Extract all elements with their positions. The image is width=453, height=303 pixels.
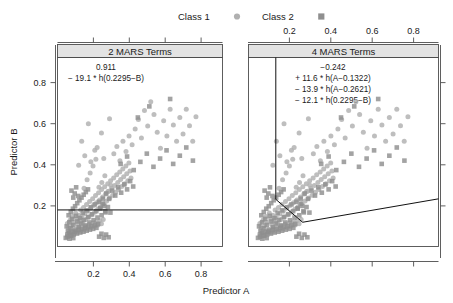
- panel-4-mars-terms: 0.2 0.4 0.6 0.8 4 MARS Terms −0.242 + 11…: [248, 26, 446, 267]
- data-point-class-1: [79, 139, 84, 144]
- data-point-class-1: [332, 142, 337, 147]
- data-point-class-2: [333, 184, 338, 189]
- data-point-class-2: [342, 160, 347, 165]
- data-point-class-1: [130, 142, 135, 147]
- data-point-class-2: [99, 231, 104, 236]
- data-point-class-1: [139, 136, 144, 141]
- data-point-class-1: [405, 114, 410, 119]
- x-axis-title: Predictor A: [203, 285, 250, 296]
- figure-canvas: Class 1 Class 2 2 MARS Terms 0.911: [0, 0, 453, 303]
- data-point-class-2: [357, 164, 362, 169]
- data-point-class-1: [284, 159, 289, 164]
- data-point-class-1: [158, 146, 163, 151]
- data-point-class-2: [104, 191, 109, 196]
- data-point-class-1: [88, 170, 93, 175]
- data-point-class-2: [100, 201, 105, 206]
- data-point-class-2: [293, 222, 298, 227]
- x-tick-label-top-3: 0.8: [407, 26, 420, 36]
- data-point-class-1: [290, 157, 295, 162]
- data-point-class-1: [297, 180, 302, 185]
- equation-line-1: − 19.1 * h(0.2295−B): [68, 74, 144, 83]
- data-point-class-2: [171, 162, 176, 167]
- data-point-class-1: [86, 121, 91, 126]
- data-point-class-1: [107, 116, 112, 121]
- equation-line-1: + 11.6 * h(A−0.1322): [295, 74, 371, 83]
- data-point-class-2: [316, 185, 321, 190]
- equation-line-3: − 12.1 * h(0.2295−B): [295, 96, 371, 105]
- data-point-class-2: [319, 162, 324, 167]
- y-tick-label-3: 0.8: [33, 78, 46, 88]
- data-point-class-2: [101, 196, 106, 201]
- data-point-class-2: [272, 216, 277, 221]
- data-point-class-2: [147, 104, 152, 109]
- bottom-axis-left: [55, 262, 223, 267]
- data-point-class-2: [74, 214, 79, 219]
- data-point-class-1: [328, 133, 333, 138]
- data-point-class-2: [334, 168, 339, 173]
- legend-label-class-1: Class 1: [178, 11, 210, 22]
- data-point-class-1: [102, 173, 107, 178]
- data-point-class-2: [267, 214, 272, 219]
- data-point-class-1: [353, 99, 358, 104]
- x-tick-label-1: 0.4: [123, 269, 136, 279]
- equation-line-0: −0.242: [320, 63, 346, 72]
- data-point-class-2: [122, 182, 127, 187]
- data-point-class-1: [270, 163, 275, 168]
- data-point-class-1: [346, 108, 351, 113]
- data-point-class-1: [391, 131, 396, 136]
- data-point-class-1: [383, 139, 388, 144]
- data-point-class-2: [93, 202, 98, 207]
- data-point-class-1: [93, 157, 98, 162]
- data-point-class-1: [292, 145, 297, 150]
- data-point-class-2: [313, 193, 318, 198]
- data-point-class-1: [350, 124, 355, 129]
- data-point-class-2: [151, 164, 156, 169]
- data-point-class-1: [282, 121, 287, 126]
- data-point-class-2: [131, 184, 136, 189]
- data-point-class-2: [89, 205, 94, 210]
- data-point-class-1: [379, 122, 384, 127]
- data-point-class-1: [164, 133, 169, 138]
- x-tick-label-top-1: 0.4: [325, 26, 338, 36]
- data-point-class-2: [131, 168, 136, 173]
- data-point-class-1: [76, 163, 81, 168]
- data-point-class-2: [78, 216, 83, 221]
- data-point-class-1: [301, 173, 306, 178]
- data-point-class-2: [118, 162, 123, 167]
- data-point-class-1: [96, 185, 101, 190]
- data-point-class-1: [280, 177, 285, 182]
- data-point-class-1: [274, 139, 279, 144]
- top-axis-right: [248, 38, 439, 43]
- data-point-class-1: [145, 124, 150, 129]
- data-point-class-2: [80, 211, 85, 216]
- data-point-class-1: [306, 116, 311, 121]
- data-point-class-1: [108, 183, 113, 188]
- data-point-class-1: [148, 99, 153, 104]
- data-point-class-2: [191, 158, 196, 163]
- data-point-class-1: [190, 139, 195, 144]
- strip-label-left: 2 MARS Terms: [108, 46, 172, 57]
- data-point-class-1: [307, 183, 312, 188]
- data-point-class-1: [297, 131, 302, 136]
- data-point-class-1: [372, 133, 377, 138]
- data-point-class-2: [264, 195, 269, 200]
- panel-2-mars-terms: 2 MARS Terms 0.911 − 19.1 * h(0.2295−B): [8, 38, 223, 280]
- data-point-class-2: [76, 194, 81, 199]
- y-tick-label-0: 0.2: [33, 201, 46, 211]
- data-point-class-1: [402, 139, 407, 144]
- data-point-class-2: [125, 154, 130, 159]
- data-point-class-1: [181, 131, 186, 136]
- x-tick-label-top-2: 0.6: [366, 26, 379, 36]
- data-point-class-1: [99, 131, 104, 136]
- equation-line-0: 0.911: [96, 63, 116, 72]
- data-point-class-1: [361, 130, 366, 135]
- data-point-class-2: [364, 156, 369, 161]
- mars-decision-boundary-figure: Class 1 Class 2 2 MARS Terms 0.911: [0, 0, 453, 303]
- data-point-class-2: [326, 187, 331, 192]
- data-point-class-2: [288, 218, 293, 223]
- data-point-class-1: [88, 159, 93, 164]
- data-point-class-2: [138, 160, 143, 165]
- data-point-class-1: [343, 136, 348, 141]
- data-point-class-2: [268, 185, 273, 190]
- data-point-class-2: [90, 212, 95, 217]
